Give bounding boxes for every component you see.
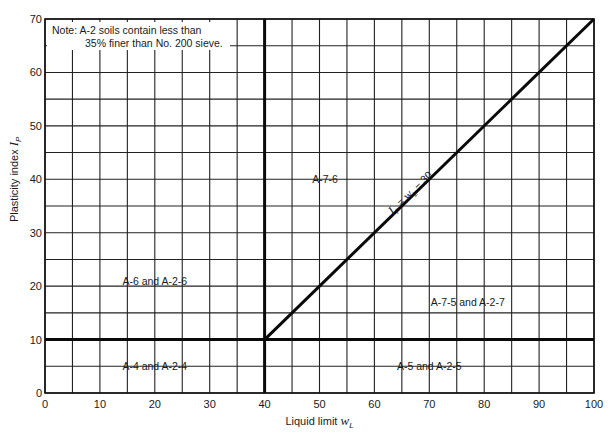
y-axis-title: Plasticity index IP — [6, 136, 23, 222]
x-tick-label: 0 — [42, 398, 48, 410]
region-label: A-7-6 — [312, 173, 338, 185]
y-tick-label: 20 — [30, 280, 42, 292]
region-label: A-5 and A-2-5 — [397, 360, 462, 372]
x-tick-label: 40 — [258, 398, 270, 410]
x-axis-title: Liquid limit wL — [285, 413, 353, 430]
x-tick-label: 10 — [94, 398, 106, 410]
y-tick-label: 70 — [30, 13, 42, 25]
x-axis-ticks: 0102030405060708090100 — [42, 398, 603, 410]
x-tick-label: 90 — [533, 398, 545, 410]
region-label: A-4 and A-2-4 — [122, 360, 187, 372]
x-tick-label: 80 — [478, 398, 490, 410]
x-tick-label: 100 — [585, 398, 603, 410]
note-line-2: 35% finer than No. 200 sieve. — [85, 37, 223, 49]
x-tick-label: 70 — [423, 398, 435, 410]
y-tick-label: 0 — [36, 387, 42, 399]
y-axis-ticks: 010203040506070 — [30, 13, 42, 399]
grid-lines — [45, 19, 594, 393]
x-tick-label: 20 — [149, 398, 161, 410]
x-tick-label: 60 — [368, 398, 380, 410]
region-label: A-6 and A-2-6 — [122, 275, 187, 287]
note-line-1: Note: A-2 soils contain less than — [52, 24, 202, 36]
y-tick-label: 40 — [30, 173, 42, 185]
y-tick-label: 30 — [30, 227, 42, 239]
x-tick-label: 50 — [313, 398, 325, 410]
y-tick-label: 10 — [30, 334, 42, 346]
y-tick-label: 60 — [30, 66, 42, 78]
region-labels: A-7-6A-6 and A-2-6A-7-5 and A-2-7A-4 and… — [122, 173, 505, 372]
y-tick-label: 50 — [30, 120, 42, 132]
region-label: A-7-5 and A-2-7 — [431, 296, 505, 308]
equation-label: IP = wL − 30 — [384, 168, 436, 219]
soil-classification-chart: Note: A-2 soils contain less than 35% fi… — [0, 0, 614, 439]
x-tick-label: 30 — [204, 398, 216, 410]
equation-text: IP = wL − 30 — [384, 168, 436, 219]
